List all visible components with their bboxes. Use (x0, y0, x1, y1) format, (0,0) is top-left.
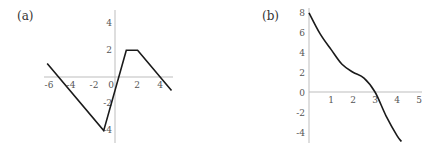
y-tick-label: 8 (299, 8, 305, 18)
x-tick-label: 5 (416, 95, 422, 105)
x-tick-label: -6 (45, 80, 54, 90)
data-line-a (47, 50, 171, 130)
y-tick-label: 6 (299, 28, 305, 38)
y-tick-label: 0 (299, 88, 305, 98)
x-tick-label: 4 (394, 95, 400, 105)
x-tick-label: 4 (157, 80, 163, 90)
chart-b: (b) 1 2 3 4 5 8 6 4 2 0 -2 -4 (262, 8, 422, 143)
y-tick-labels-b: 8 6 4 2 0 -2 -4 (296, 8, 305, 138)
x-tick-label: 1 (328, 95, 334, 105)
x-tick-label: 2 (134, 80, 140, 90)
panel-label-a: (a) (17, 9, 34, 23)
y-tick-label: -2 (296, 108, 305, 118)
x-tick-labels-b: 1 2 3 4 5 (328, 95, 422, 105)
y-tick-label: -4 (296, 128, 305, 138)
y-tick-label: 2 (299, 68, 305, 78)
y-tick-label: 4 (106, 18, 112, 28)
x-tick-label: 2 (350, 95, 356, 105)
figure: (a) -6 -4 -2 0 2 4 4 2 -2 -4 (b) 1 2 3 4… (0, 0, 436, 156)
y-tick-label: 2 (106, 45, 112, 55)
y-tick-label: 4 (299, 48, 305, 58)
data-curve-b (309, 13, 401, 142)
x-tick-label: 0 (108, 80, 114, 90)
x-tick-label: -2 (90, 80, 99, 90)
chart-a: (a) -6 -4 -2 0 2 4 4 2 -2 -4 (17, 9, 173, 143)
panel-label-b: (b) (262, 9, 279, 23)
